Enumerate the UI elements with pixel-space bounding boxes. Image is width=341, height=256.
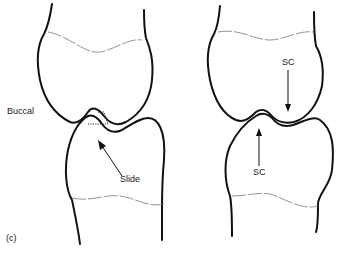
sc-lower-arrow [256,128,262,166]
left-lower-tooth [66,112,164,244]
left-upper-tooth [38,4,153,124]
sc-lower-label: SC [253,168,266,177]
diagram-drawing [0,0,341,256]
occlusion-diagram: Buccal Slide SC SC (c) [0,0,341,256]
sc-upper-label: SC [282,58,295,67]
sc-upper-arrow [285,70,291,112]
buccal-label: Buccal [7,107,34,116]
right-lower-tooth [226,114,333,236]
slide-arrow [98,140,122,176]
slide-label: Slide [120,175,140,184]
panel-label: (c) [6,234,17,243]
right-upper-tooth [208,6,323,123]
